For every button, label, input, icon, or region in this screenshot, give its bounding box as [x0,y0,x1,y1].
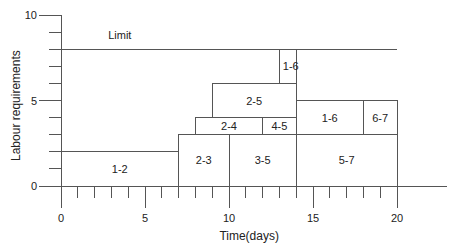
limit-group: Limit [61,29,397,49]
x-axis-title: Time(days) [219,229,279,243]
x-tick-label: 5 [142,212,148,224]
y-tick-label: 10 [25,9,37,21]
x-tick-label: 20 [391,212,403,224]
activity-label: 6-7 [372,112,388,124]
limit-label: Limit [108,29,131,41]
activity-label: 1-6 [283,60,299,72]
activity-label: 5-7 [339,154,355,166]
x-tick-label: 0 [58,212,64,224]
labour-histogram-chart: 051005101520 1-22-33-52-44-52-51-65-71-6… [0,0,461,247]
activity-label: 3-5 [255,154,271,166]
activity-label: 4-5 [271,120,287,132]
y-tick-label: 5 [31,95,37,107]
activity-label: 1-2 [112,163,128,175]
activity-label: 1-6 [322,112,338,124]
y-axis-title: Labour requirements [9,50,23,161]
x-tick-label: 15 [307,212,319,224]
activity-label: 2-5 [246,95,262,107]
activity-blocks: 1-22-33-52-44-52-51-65-71-66-7 [61,49,397,186]
activity-label: 2-3 [196,154,212,166]
x-tick-label: 10 [223,212,235,224]
y-tick-label: 0 [31,180,37,192]
activity-label: 2-4 [221,120,237,132]
